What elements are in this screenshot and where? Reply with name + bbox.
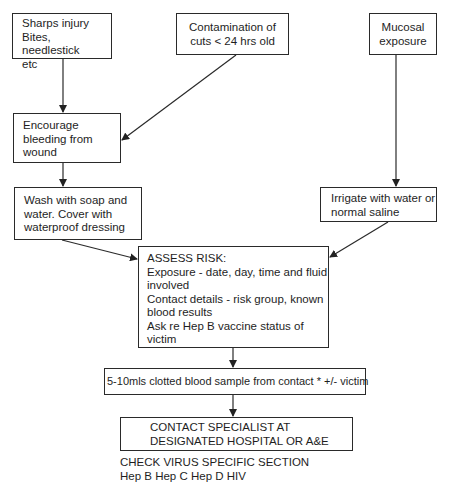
node-text: Exposure - date, day, time and fluid bbox=[147, 266, 328, 280]
node-text: waterproof dressing bbox=[24, 221, 141, 235]
node-text: 5-10mls clotted blood sample from contac… bbox=[107, 375, 365, 389]
node-text: Irrigate with water or bbox=[331, 192, 436, 206]
node-text: etc bbox=[22, 58, 111, 72]
node-text: Sharps injury bbox=[22, 17, 111, 31]
node-irrigate: Irrigate with water or normal saline bbox=[320, 187, 437, 222]
node-text: Contamination of bbox=[177, 21, 288, 35]
node-text: Wash with soap and bbox=[24, 194, 141, 208]
node-text: involved bbox=[147, 279, 328, 293]
node-text: water. Cover with bbox=[24, 208, 141, 222]
node-contact-specialist: CONTACT SPECIALIST AT DESIGNATED HOSPITA… bbox=[120, 417, 353, 451]
footer-note: CHECK VIRUS SPECIFIC SECTION Hep B Hep C… bbox=[120, 456, 309, 483]
node-encourage-bleeding: Encourage bleeding from wound bbox=[13, 113, 121, 163]
node-heading: ASSESS RISK: bbox=[147, 252, 328, 266]
node-assess-risk: ASSESS RISK: Exposure - date, day, time … bbox=[138, 246, 329, 348]
node-text: Contact details - risk group, known bbox=[147, 293, 328, 307]
node-text: Bites, needlestick bbox=[22, 31, 111, 58]
arrow-irrigate-to-assess bbox=[330, 222, 388, 257]
node-text: bleeding from bbox=[23, 133, 120, 147]
node-blood-sample: 5-10mls clotted blood sample from contac… bbox=[104, 368, 366, 395]
node-text: normal saline bbox=[331, 206, 436, 220]
node-text: blood results bbox=[147, 306, 328, 320]
arrow-wash-to-assess bbox=[62, 240, 137, 259]
node-sharps-injury: Sharps injury Bites, needlestick etc bbox=[12, 13, 112, 59]
node-text: CONTACT SPECIALIST AT bbox=[150, 421, 352, 435]
node-text: Ask re Hep B vaccine status of bbox=[147, 320, 328, 334]
footer-line: CHECK VIRUS SPECIFIC SECTION bbox=[120, 456, 309, 470]
node-text: Encourage bbox=[23, 119, 120, 133]
node-text: Mucosal bbox=[370, 21, 436, 35]
node-wash-cover: Wash with soap and water. Cover with wat… bbox=[14, 187, 142, 240]
arrow-contamination-to-encourage bbox=[122, 55, 236, 140]
node-text: DESIGNATED HOSPITAL OR A&E bbox=[150, 435, 352, 449]
node-text: wound bbox=[23, 146, 120, 160]
node-contamination: Contamination of cuts < 24 hrs old bbox=[176, 13, 289, 55]
node-text: exposure bbox=[370, 35, 436, 49]
node-mucosal-exposure: Mucosal exposure bbox=[369, 13, 437, 55]
footer-line: Hep B Hep C Hep D HIV bbox=[120, 470, 309, 484]
node-text: cuts < 24 hrs old bbox=[177, 35, 288, 49]
connector-arrows bbox=[0, 0, 454, 487]
node-text: victim bbox=[147, 333, 328, 347]
